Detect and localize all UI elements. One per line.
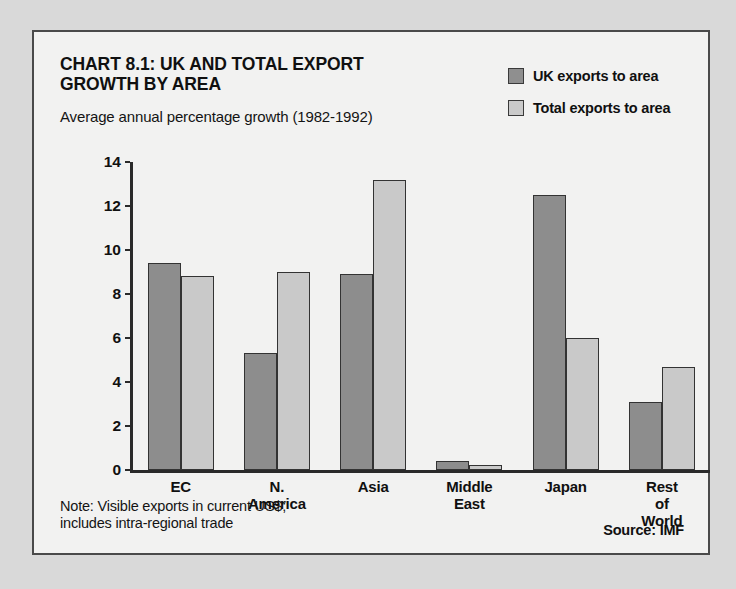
- y-axis-tick-mark: [125, 381, 130, 383]
- x-axis-category-label: Asia: [358, 479, 389, 496]
- y-axis-tick-label: 6: [112, 329, 121, 347]
- legend-item-uk-exports: UK exports to area: [508, 68, 670, 84]
- y-axis-tick-mark: [125, 161, 130, 163]
- y-axis-tick-mark: [125, 205, 130, 207]
- bar-group: Middle East: [421, 162, 517, 470]
- chart-panel: CHART 8.1: UK AND TOTAL EXPORT GROWTH BY…: [32, 30, 710, 555]
- y-axis-tick-label: 14: [104, 153, 121, 171]
- y-axis-tick-label: 2: [112, 417, 121, 435]
- chart-source: Source: IMF: [603, 522, 684, 538]
- chart-legend: UK exports to area Total exports to area: [508, 68, 670, 132]
- x-axis-line: [130, 470, 710, 473]
- bar-uk[interactable]: [244, 353, 277, 470]
- bar-uk[interactable]: [629, 402, 662, 470]
- bar-group: Japan: [518, 162, 614, 470]
- y-axis-tick-mark: [125, 249, 130, 251]
- bar-group: Rest of World: [614, 162, 710, 470]
- bar-uk[interactable]: [340, 274, 373, 470]
- bar-total[interactable]: [566, 338, 599, 470]
- chart-subtitle: Average annual percentage growth (1982-1…: [60, 108, 373, 125]
- chart-title: CHART 8.1: UK AND TOTAL EXPORT GROWTH BY…: [60, 54, 460, 95]
- bar-group: N. America: [229, 162, 325, 470]
- y-axis-tick-label: 10: [104, 241, 121, 259]
- legend-swatch-icon-total: [508, 100, 524, 116]
- chart-note: Note: Visible exports in current US$; in…: [60, 498, 286, 533]
- y-axis-tick-mark: [125, 337, 130, 339]
- legend-swatch-icon-uk: [508, 68, 524, 84]
- y-axis-tick-label: 12: [104, 197, 121, 215]
- legend-label-total: Total exports to area: [533, 100, 670, 116]
- bar-uk[interactable]: [148, 263, 181, 470]
- bar-total[interactable]: [181, 276, 214, 470]
- x-axis-category-label: EC: [170, 479, 190, 496]
- screenshot-root: CHART 8.1: UK AND TOTAL EXPORT GROWTH BY…: [0, 0, 736, 589]
- y-axis-tick-mark: [125, 469, 130, 471]
- y-axis-tick-mark: [125, 425, 130, 427]
- x-axis-category-label: Japan: [544, 479, 586, 496]
- bar-uk[interactable]: [436, 461, 469, 470]
- bar-groups: ECN. AmericaAsiaMiddle EastJapanRest of …: [133, 162, 711, 470]
- y-axis-tick-mark: [125, 293, 130, 295]
- y-axis-tick-label: 4: [112, 373, 121, 391]
- bar-total[interactable]: [469, 465, 502, 471]
- bar-group: EC: [133, 162, 229, 470]
- bar-uk[interactable]: [533, 195, 566, 470]
- x-axis-category-label: Middle East: [446, 479, 492, 513]
- bar-group: Asia: [325, 162, 421, 470]
- bar-total[interactable]: [373, 180, 406, 470]
- plot-area: 02468101214 ECN. AmericaAsiaMiddle EastJ…: [130, 162, 710, 470]
- y-axis-tick-label: 8: [112, 285, 121, 303]
- legend-label-uk: UK exports to area: [533, 68, 658, 84]
- y-axis-tick-label: 0: [112, 461, 121, 479]
- legend-item-total-exports: Total exports to area: [508, 100, 670, 116]
- bar-total[interactable]: [662, 367, 695, 470]
- bar-total[interactable]: [277, 272, 310, 470]
